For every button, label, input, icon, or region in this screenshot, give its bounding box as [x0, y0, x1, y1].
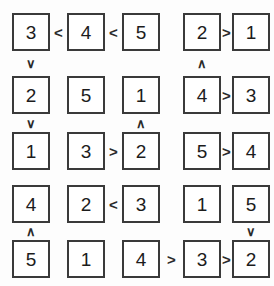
cell-r4c2[interactable]: 2 [67, 185, 105, 223]
cell-r5c1[interactable]: 5 [12, 240, 50, 278]
cell-r4c3[interactable]: 3 [122, 185, 160, 223]
cell-r5c3[interactable]: 4 [122, 240, 160, 278]
h-ineq-r1c4-c5: > [219, 13, 235, 51]
h-ineq-r1c2-c3: < [106, 13, 122, 51]
cell-r5c5[interactable]: 2 [232, 240, 270, 278]
cell-r3c2[interactable]: 3 [67, 132, 105, 170]
cell-r5c4[interactable]: 3 [183, 240, 221, 278]
cell-r3c4[interactable]: 5 [183, 132, 221, 170]
h-ineq-r4c2-c3: < [106, 185, 122, 223]
v-ineq-c1r1-r2: ∨ [12, 57, 50, 71]
cell-r4c1[interactable]: 4 [12, 185, 50, 223]
cell-r1c3[interactable]: 5 [122, 13, 160, 51]
v-ineq-c1r4-r5: ∧ [12, 225, 50, 239]
v-ineq-c4r1-r2: ∧ [183, 57, 221, 71]
cell-r1c4[interactable]: 2 [183, 13, 221, 51]
futoshiki-puzzle: 3452125143132544231551432<<>>>><>>∨∨∧∧∧∨ [0, 0, 274, 286]
cell-r2c5[interactable]: 3 [232, 76, 270, 114]
v-ineq-c5r4-r5: ∨ [232, 225, 270, 239]
cell-r3c3[interactable]: 2 [122, 132, 160, 170]
cell-r3c5[interactable]: 4 [232, 132, 270, 170]
h-ineq-r5c4-c5: > [219, 240, 235, 278]
cell-r3c1[interactable]: 1 [12, 132, 50, 170]
h-ineq-r3c2-c3: > [106, 132, 122, 170]
cell-r5c2[interactable]: 1 [67, 240, 105, 278]
cell-r1c2[interactable]: 4 [67, 13, 105, 51]
v-ineq-c1r2-r3: ∨ [12, 116, 50, 130]
v-ineq-c3r2-r3: ∧ [122, 116, 160, 130]
cell-r2c3[interactable]: 1 [122, 76, 160, 114]
cell-r1c5[interactable]: 1 [232, 13, 270, 51]
h-ineq-r5c3-c4: > [164, 240, 180, 278]
cell-r1c1[interactable]: 3 [12, 13, 50, 51]
cell-r2c1[interactable]: 2 [12, 76, 50, 114]
cell-r4c5[interactable]: 5 [232, 185, 270, 223]
h-ineq-r3c4-c5: > [219, 132, 235, 170]
cell-r2c2[interactable]: 5 [67, 76, 105, 114]
h-ineq-r2c4-c5: > [219, 76, 235, 114]
cell-r2c4[interactable]: 4 [183, 76, 221, 114]
h-ineq-r1c1-c2: < [51, 13, 67, 51]
cell-r4c4[interactable]: 1 [183, 185, 221, 223]
